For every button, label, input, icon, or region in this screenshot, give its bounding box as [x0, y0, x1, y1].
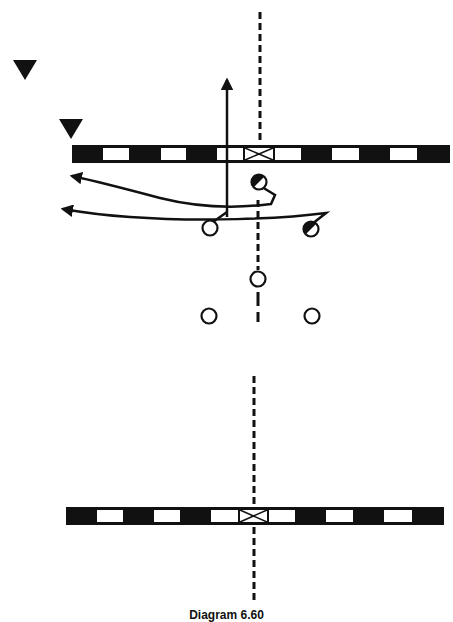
diagram-caption: Diagram 6.60 — [0, 608, 453, 622]
top-field — [13, 12, 450, 324]
route-curve-upper — [72, 176, 275, 206]
defender-triangle-icon — [13, 60, 37, 80]
player-right-wing — [304, 222, 319, 237]
player-back-right — [305, 309, 320, 324]
player-back-left — [202, 309, 217, 324]
bottom-field — [66, 376, 444, 604]
player-ball-top — [252, 175, 267, 190]
line-of-scrimmage-top — [72, 145, 450, 163]
player-center-mid — [251, 272, 266, 287]
player-left-wing — [203, 221, 218, 236]
line-of-scrimmage-bottom — [66, 507, 444, 525]
route-curve-lower — [63, 209, 326, 224]
defender-triangle-icon — [59, 119, 83, 139]
